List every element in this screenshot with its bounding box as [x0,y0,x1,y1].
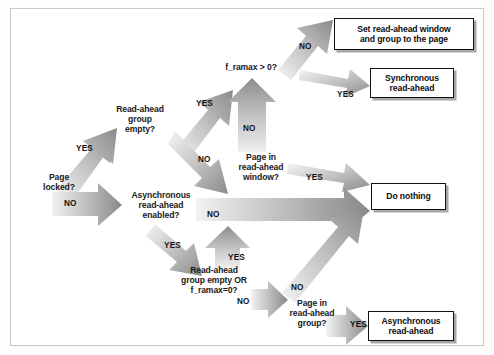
node-read-ahead-group-empty: Read-ahead group empty? [100,104,180,135]
edge-label-e11: YES [228,253,245,262]
node-framax-greater-than-zero: f_ramax > 0? [207,62,295,72]
box-set-read-ahead-window-and-group: Set read-ahead window and group to the p… [334,18,474,50]
edge-label-e4: NO [198,155,211,164]
node-page-in-read-ahead-group: Page in read-ahead group? [276,298,348,329]
edge-label-e8: YES [306,173,323,182]
edge-label-e6: YES [337,90,354,99]
edge-label-e7: NO [243,124,256,133]
node-async-read-ahead-enabled: Asynchronous read-ahead enabled? [118,190,204,221]
edge-arrow-e7 [228,78,276,152]
edge-label-e10: YES [164,241,181,250]
edge-label-e12: NO [237,297,250,306]
flowchart-figure: Page locked? Read-ahead group empty? f_r… [0,0,494,355]
box-asynchronous-read-ahead: Asynchronous read-ahead [368,311,454,341]
edge-label-e3: YES [196,99,213,108]
box-do-nothing: Do nothing [371,183,446,210]
edge-label-e5: NO [299,42,312,51]
edge-label-e2: NO [64,199,77,208]
edge-label-e1: YES [76,144,93,153]
edge-arrow-e6 [299,69,370,97]
node-read-ahead-group-empty-or-framax-zero: Read-ahead group empty OR f_ramax=0? [166,265,262,296]
node-page-in-read-ahead-window: Page in read-ahead window? [222,152,300,183]
edge-label-e9: NO [207,210,220,219]
node-page-locked: Page locked? [24,172,94,192]
box-synchronous-read-ahead: Synchronous read-ahead [370,68,454,98]
edge-label-e14: YES [350,320,367,329]
edge-label-e13: NO [291,283,304,292]
